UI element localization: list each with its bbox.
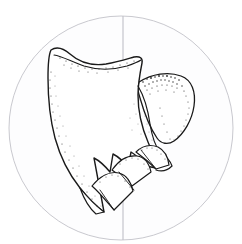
specimen-illustration — [0, 0, 242, 244]
figure-container: · · · — · · — [0, 0, 242, 244]
